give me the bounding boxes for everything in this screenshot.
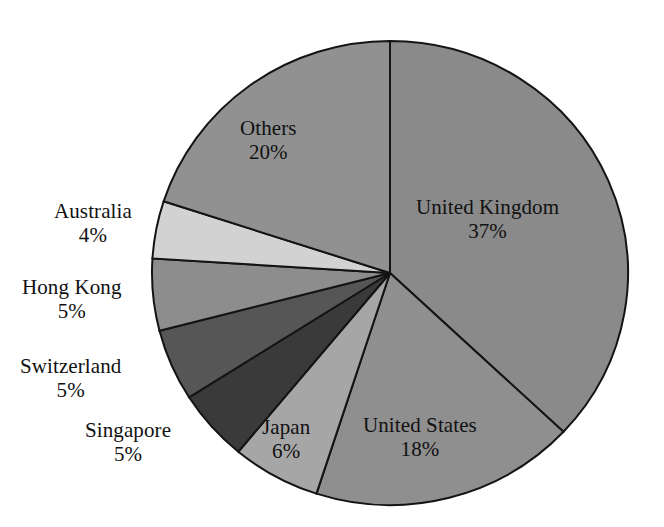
slice-label-value: 5% [20, 379, 121, 403]
slice-label-united-states: United States 18% [363, 414, 477, 462]
slice-label-singapore: Singapore 5% [85, 419, 171, 467]
slice-label-value: 37% [416, 220, 559, 244]
slice-label-value: 6% [262, 440, 310, 464]
slice-label-value: 18% [363, 438, 477, 462]
slice-label-value: 5% [85, 443, 171, 467]
slice-label-name: Switzerland [20, 355, 121, 379]
slice-label-united-kingdom: United Kingdom 37% [416, 196, 559, 244]
slice-label-others: Others 20% [240, 117, 297, 165]
slice-label-name: Singapore [85, 419, 171, 443]
slice-label-value: 4% [54, 224, 132, 248]
slice-label-value: 5% [22, 300, 121, 324]
slice-label-name: Japan [262, 416, 310, 440]
slice-label-australia: Australia 4% [54, 200, 132, 248]
slice-label-japan: Japan 6% [262, 416, 310, 464]
pie-chart: United Kingdom 37% United States 18% Jap… [0, 0, 664, 527]
slice-label-name: Hong Kong [22, 276, 121, 300]
slice-label-name: United States [363, 414, 477, 438]
slice-label-switzerland: Switzerland 5% [20, 355, 121, 403]
slice-label-hong-kong: Hong Kong 5% [22, 276, 121, 324]
slice-label-name: Australia [54, 200, 132, 224]
slice-label-name: Others [240, 117, 297, 141]
slice-label-name: United Kingdom [416, 196, 559, 220]
slice-label-value: 20% [240, 141, 297, 165]
